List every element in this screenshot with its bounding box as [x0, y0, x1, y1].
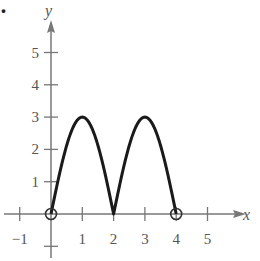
x-tick-label: −1: [12, 231, 28, 247]
y-tick-label: 3: [32, 109, 40, 125]
axes: [4, 20, 246, 258]
x-tick-label: 3: [141, 231, 149, 247]
y-axis-label: y: [43, 2, 53, 20]
x-tick-label: 1: [79, 231, 87, 247]
function-curve: [51, 117, 176, 214]
x-tick-label: 5: [204, 231, 212, 247]
y-tick-label: 1: [32, 174, 40, 190]
x-axis-label: x: [242, 206, 250, 223]
y-tick-label: 2: [32, 141, 40, 157]
function-graph: −11234512345 x y: [0, 0, 260, 261]
y-tick-label: 5: [32, 45, 40, 61]
axis-ticks: [20, 53, 208, 247]
x-tick-label: 2: [110, 231, 118, 247]
x-tick-label: 4: [172, 231, 180, 247]
y-tick-label: 4: [32, 77, 40, 93]
